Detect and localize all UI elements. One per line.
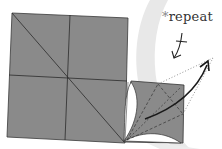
fold-symbol-crossbar [176, 41, 187, 42]
folded-square [124, 81, 184, 143]
asterisk-symbol: * [162, 9, 169, 24]
fold-symbol [172, 33, 187, 58]
repeat-label: repeat [169, 9, 213, 24]
large-square [7, 13, 128, 143]
origami-diagram: *repeat [0, 0, 222, 149]
fold-symbol-stem [174, 33, 182, 58]
repeat-annotation: *repeat [162, 9, 213, 24]
